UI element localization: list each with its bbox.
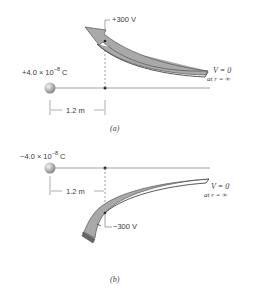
v-zero-label-a: V = 0: [213, 66, 231, 75]
potential-label-a: +300 V: [112, 15, 136, 24]
arrow-point-a: [104, 40, 107, 43]
panel-a: [45, 20, 211, 115]
caption-b: (b): [110, 275, 119, 284]
distance-label-a: 1.2 m: [66, 106, 85, 115]
v-zero-label-b: V = 0: [211, 182, 229, 191]
charge-mantissa-b: −4.0 × 10: [20, 152, 52, 161]
diagram-canvas: [0, 0, 255, 288]
charge-label-a: +4.0 × 10−8 C: [22, 66, 67, 77]
distance-label-b: 1.2 m: [66, 187, 85, 196]
potential-curve-arrow-b: [84, 179, 209, 238]
caption-a: (a): [110, 124, 119, 133]
potential-label-b: −300 V: [113, 222, 137, 231]
at-infinity-label-a: at r = ∞: [207, 75, 230, 83]
positive-charge-sphere: [45, 83, 56, 94]
charge-unit-a: C: [60, 68, 68, 77]
at-infinity-label-b: at r = ∞: [204, 191, 227, 199]
potential-curve-arrow-a: [85, 27, 208, 75]
charge-mantissa-a: +4.0 × 10: [22, 68, 54, 77]
charge-label-b: −4.0 × 10−8 C: [20, 150, 65, 161]
negative-charge-sphere: [45, 163, 56, 174]
charge-unit-b: C: [58, 152, 66, 161]
